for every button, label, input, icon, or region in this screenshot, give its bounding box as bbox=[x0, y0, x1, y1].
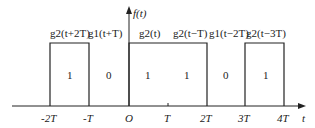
y-axis-label: f(t) bbox=[133, 7, 147, 20]
segment-value: 0 bbox=[106, 69, 112, 81]
segment-func-label: g1(t−2T) bbox=[209, 27, 249, 40]
tick-label: O bbox=[125, 112, 133, 124]
segment-func-label: g2(t) bbox=[139, 27, 161, 40]
x-axis-arrow-icon bbox=[298, 103, 306, 109]
x-axis-label: t bbox=[302, 112, 306, 124]
tick-label: -2T bbox=[41, 112, 57, 124]
segment-func-label: g1(t+T) bbox=[88, 27, 123, 40]
segment-value: 0 bbox=[223, 69, 229, 81]
segment-value: 1 bbox=[184, 69, 190, 81]
segment-value: 1 bbox=[263, 69, 269, 81]
tick-label: T bbox=[164, 112, 171, 124]
tick-label: 3T bbox=[237, 112, 251, 124]
segment-func-label: g2(t−3T) bbox=[246, 27, 286, 40]
tick-label: 2T bbox=[200, 112, 213, 124]
segment-value: 1 bbox=[67, 69, 73, 81]
segment-value: 1 bbox=[145, 69, 151, 81]
y-axis-arrow-icon bbox=[126, 6, 132, 14]
segment-func-label: g2(t+2T) bbox=[50, 27, 90, 40]
segment-func-label: g2(t−T) bbox=[173, 27, 208, 40]
waveform-diagram: f(t) t g2(t+2T) g1(t+T) g2(t) g2(t−T) g1… bbox=[0, 0, 315, 128]
tick-label: 4T bbox=[277, 112, 290, 124]
tick-label: -T bbox=[83, 112, 94, 124]
pulse-g2-t-and-t-minus-T bbox=[129, 43, 207, 106]
